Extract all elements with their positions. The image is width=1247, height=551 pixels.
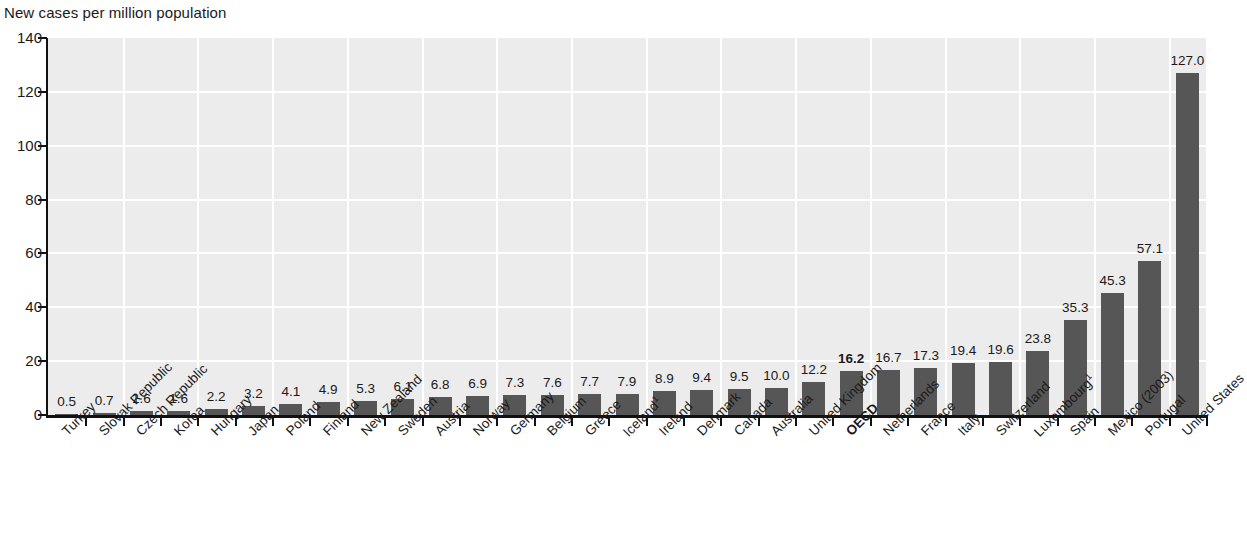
bar-value-label: 19.6 <box>987 342 1013 357</box>
bar-value-label: 8.9 <box>655 371 674 386</box>
y-axis-tick-label: 40 <box>2 298 42 315</box>
bar[interactable] <box>1101 293 1124 415</box>
bar-value-label: 4.9 <box>319 382 338 397</box>
gridline-vertical <box>571 38 573 415</box>
gridline-vertical <box>123 38 125 415</box>
bar-value-label: 5.3 <box>356 381 375 396</box>
bar-value-label: 6.9 <box>468 376 487 391</box>
bar-value-label: 57.1 <box>1137 241 1163 256</box>
bar-value-label: 35.3 <box>1062 300 1088 315</box>
bar-value-label: 16.2 <box>838 351 864 366</box>
gridline-vertical <box>795 38 797 415</box>
gridline-vertical <box>272 38 274 415</box>
y-axis-tick-label: 80 <box>2 191 42 208</box>
y-axis-tick-label: 120 <box>2 83 42 100</box>
gridline-horizontal <box>48 199 1206 201</box>
gridline-vertical <box>1094 38 1096 415</box>
bar-value-label: 17.3 <box>913 348 939 363</box>
gridline-horizontal <box>48 91 1206 93</box>
y-axis-title: New cases per million population <box>4 4 226 21</box>
bar-value-label: 127.0 <box>1170 53 1204 68</box>
bar-value-label: 9.5 <box>730 369 749 384</box>
y-axis-tick-label: 0 <box>2 406 42 423</box>
bar-value-label: 7.3 <box>506 375 525 390</box>
bar-value-label: 23.8 <box>1025 331 1051 346</box>
gridline-vertical <box>422 38 424 415</box>
plot-area <box>48 38 1206 415</box>
gridline-vertical <box>945 38 947 415</box>
gridline-vertical <box>197 38 199 415</box>
y-axis-tick-label: 100 <box>2 137 42 154</box>
gridline-horizontal <box>48 306 1206 308</box>
gridline-vertical <box>646 38 648 415</box>
bar-value-label: 4.1 <box>281 384 300 399</box>
bar-value-label: 19.4 <box>950 343 976 358</box>
gridline-vertical <box>720 38 722 415</box>
bar-value-label: 9.4 <box>692 370 711 385</box>
gridline-vertical <box>347 38 349 415</box>
bar-value-label: 7.7 <box>580 374 599 389</box>
y-axis-tick-label: 140 <box>2 29 42 46</box>
bar-value-label: 7.6 <box>543 375 562 390</box>
bar-value-label: 0.5 <box>57 394 76 409</box>
bar-value-label: 16.7 <box>875 350 901 365</box>
bar-value-label: 6.8 <box>431 377 450 392</box>
bar-value-label: 7.9 <box>618 374 637 389</box>
bar-value-label: 2.2 <box>207 389 226 404</box>
gridline-vertical <box>496 38 498 415</box>
gridline-horizontal <box>48 252 1206 254</box>
bar-value-label: 0.7 <box>95 393 114 408</box>
bar-value-label: 10.0 <box>763 368 789 383</box>
gridline-vertical <box>1019 38 1021 415</box>
gridline-vertical <box>870 38 872 415</box>
y-axis-tick-label: 20 <box>2 352 42 369</box>
gridline-horizontal <box>48 145 1206 147</box>
gridline-vertical <box>1169 38 1171 415</box>
bar-value-label: 45.3 <box>1099 273 1125 288</box>
y-axis-tick-label: 60 <box>2 244 42 261</box>
bar[interactable] <box>877 370 900 415</box>
bar[interactable] <box>989 362 1012 415</box>
bar[interactable] <box>1176 73 1199 415</box>
bar-value-label: 12.2 <box>801 362 827 377</box>
